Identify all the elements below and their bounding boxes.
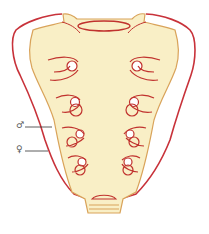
male-outline (30, 14, 178, 213)
male-symbol-label: ♂ (16, 121, 24, 130)
sacrum-diagram (0, 0, 209, 234)
female-symbol-label: ♀ (16, 145, 23, 154)
